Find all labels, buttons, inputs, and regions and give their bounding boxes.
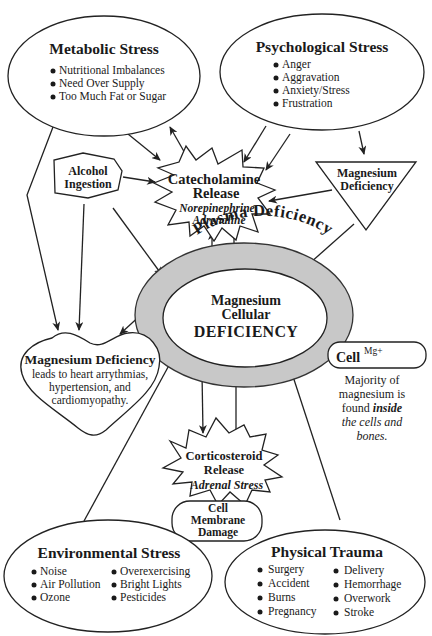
cell-note: Majority of magnesium is found inside th… [339, 373, 406, 443]
list-item: Noise [40, 565, 67, 577]
center-line2: Cellular [222, 307, 271, 322]
list-item: Delivery [344, 564, 384, 577]
environmental-stress-title: Environmental Stress [38, 544, 181, 561]
membrane-line1: Cell [208, 502, 228, 514]
list-item: Pregnancy [268, 605, 317, 618]
list-item: Hemorrhage [344, 578, 401, 591]
corticosteroid-line3: Adrenal Stress [190, 478, 264, 492]
environmental-stress-node: Environmental Stress Noise Air Pollution… [4, 520, 212, 632]
psychological-stress-title: Psychological Stress [256, 38, 389, 55]
list-item: Stroke [344, 606, 374, 618]
list-item: Too Much Fat or Sugar [59, 90, 166, 103]
center-line1: Magnesium [211, 293, 281, 308]
triangle-label-line2: Deficiency [340, 179, 393, 193]
list-item: Accident [268, 577, 310, 589]
physical-trauma-title: Physical Trauma [271, 543, 383, 560]
membrane-line2: Membrane [191, 514, 245, 526]
alcohol-label-line1: Alcohol [68, 164, 108, 178]
cell-note-line1: Majority of [345, 373, 400, 387]
list-item: Anger [282, 58, 311, 71]
list-item: Overexercising [120, 565, 190, 578]
list-item: Burns [268, 591, 296, 603]
heart-line2: hypertension, and [49, 381, 131, 394]
psychological-stress-node: Psychological Stress Anger Aggravation A… [220, 14, 424, 130]
list-item: Ozone [40, 591, 70, 603]
cell-note-line2: magnesium is [339, 387, 406, 401]
metabolic-stress-node: Metabolic Stress Nutritional Imbalances … [8, 16, 200, 136]
cell-note-line4: the cells and [342, 415, 404, 429]
catecholamine-title-line2: Release [193, 185, 240, 201]
membrane-line3: Damage [198, 526, 238, 539]
cell-note-line3: found inside [342, 401, 403, 415]
list-item: Pesticides [120, 591, 167, 603]
corticosteroid-release-node: Corticosteroid Release Adrenal Stress [163, 418, 282, 505]
list-item: Overwork [344, 592, 391, 604]
cell-mg-node: Cell Mg+ [328, 342, 426, 368]
corticosteroid-line1: Corticosteroid [186, 449, 263, 463]
cell-label: Cell [336, 350, 360, 365]
list-item: Anxiety/Stress [282, 84, 350, 97]
alcohol-label-line2: Ingestion [64, 177, 112, 191]
alcohol-ingestion-node: Alcohol Ingestion [54, 153, 122, 198]
triangle-label-line1: Magnesium [337, 166, 397, 180]
list-item: Need Over Supply [59, 77, 145, 90]
cell-note-line5: bones. [357, 429, 388, 443]
list-item: Bright Lights [120, 578, 182, 591]
heart-title: Magnesium Deficiency [25, 352, 156, 367]
heart-line3: cardiomyopathy. [52, 394, 129, 407]
magnesium-deficiency-diagram: Metabolic Stress Nutritional Imbalances … [0, 0, 432, 636]
list-item: Air Pollution [40, 578, 101, 590]
heart-line1: leads to heart arrythmias, [32, 368, 148, 381]
physical-trauma-node: Physical Trauma Surgery Accident Burns P… [225, 530, 425, 634]
metabolic-stress-title: Metabolic Stress [49, 40, 158, 57]
cell-superscript: Mg+ [364, 346, 383, 356]
cell-membrane-damage-node: Cell Membrane Damage [172, 501, 262, 541]
list-item: Aggravation [282, 71, 340, 84]
center-line3: DEFICIENCY [194, 323, 298, 340]
corticosteroid-line2: Release [204, 463, 245, 477]
list-item: Surgery [268, 563, 304, 576]
list-item: Frustration [282, 97, 333, 109]
list-item: Nutritional Imbalances [59, 64, 165, 76]
